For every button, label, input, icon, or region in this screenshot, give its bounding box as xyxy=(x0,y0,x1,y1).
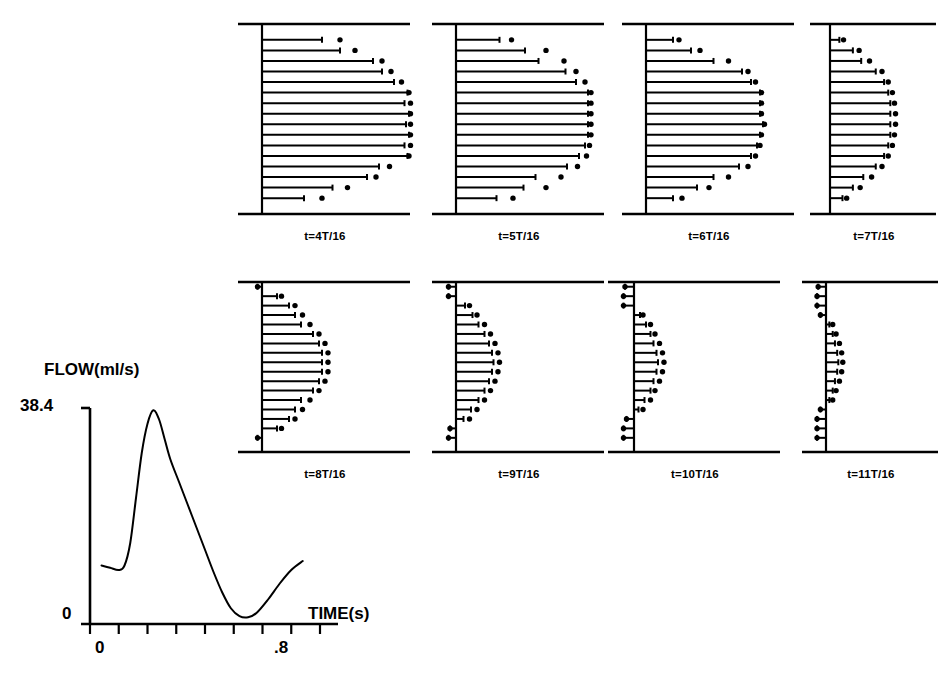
profile-panel: t=5T/16 xyxy=(430,14,608,259)
profile-panel-label: t=4T/16 xyxy=(236,230,414,242)
profile-panel: t=10T/16 xyxy=(606,272,784,502)
profile-plot xyxy=(808,14,940,226)
profile-panel-label: t=9T/16 xyxy=(430,468,608,480)
profile-plot xyxy=(620,14,798,226)
profile-panel: t=11T/16 xyxy=(800,272,942,502)
profile-panel-label: t=5T/16 xyxy=(430,230,608,242)
profile-panel: t=7T/16 xyxy=(808,14,940,259)
profile-plot xyxy=(606,272,784,464)
profile-plot xyxy=(430,14,608,226)
profile-panel-label: t=10T/16 xyxy=(606,468,784,480)
profile-plot xyxy=(800,272,942,464)
flow-waveform-chart: FLOW(ml/s) 38.4 0 0 .8 TIME(s) xyxy=(20,352,440,682)
velocity-profile-figure: t=4T/16 t=5T/16 t=6T/16 t=7T/16 t=8T/16 … xyxy=(0,0,944,689)
profile-plot xyxy=(430,272,608,464)
flow-waveform-plot xyxy=(20,352,440,682)
profile-panel-label: t=11T/16 xyxy=(800,468,942,480)
profile-panel: t=6T/16 xyxy=(620,14,798,259)
profile-panel: t=4T/16 xyxy=(236,14,414,259)
profile-panel-label: t=6T/16 xyxy=(620,230,798,242)
profile-panel-label: t=7T/16 xyxy=(808,230,940,242)
profile-panel: t=9T/16 xyxy=(430,272,608,502)
profile-plot xyxy=(236,14,414,226)
